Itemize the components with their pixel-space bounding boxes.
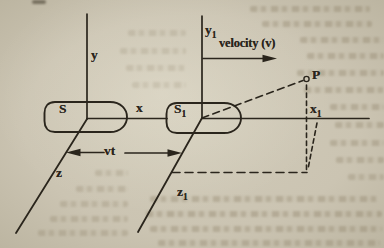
z-axis xyxy=(16,119,87,233)
velocity-label: velocity (v) xyxy=(219,37,275,50)
y1-main: y xyxy=(205,22,212,37)
y-axis-label: y xyxy=(91,48,98,62)
z1-axis-label: z1 xyxy=(177,185,188,199)
y1-axis-label: y1 xyxy=(205,23,217,37)
z1-axis xyxy=(138,118,202,232)
y1-sub: 1 xyxy=(212,30,217,40)
z-axis-label: z xyxy=(56,166,62,180)
x1-axis-label: x1 xyxy=(310,102,322,116)
velocity-arrowhead-icon xyxy=(263,55,278,62)
frame-s1-label: S1 xyxy=(174,102,186,116)
x1-sub: 1 xyxy=(317,109,322,119)
point-p-marker xyxy=(304,76,309,81)
point-p-label: P xyxy=(312,68,320,82)
relativity-frames-diagram xyxy=(0,0,384,248)
s1-main: S xyxy=(174,101,182,116)
vt-right-arrowhead-icon xyxy=(168,149,183,156)
s1-sub: 1 xyxy=(182,109,187,119)
x1-main: x xyxy=(310,101,317,116)
x-axis-label: x xyxy=(136,101,143,115)
scanned-page: y x z S y1 x1 z1 S1 velocity (v) vt P xyxy=(0,0,384,248)
vt-label: vt xyxy=(104,144,115,158)
z1-sub: 1 xyxy=(183,192,188,202)
frame-s-label: S xyxy=(59,102,67,116)
origin-to-p-dashed-line xyxy=(202,81,303,119)
p-projection-dashed-line xyxy=(308,123,317,169)
frame-s-body xyxy=(45,102,128,132)
